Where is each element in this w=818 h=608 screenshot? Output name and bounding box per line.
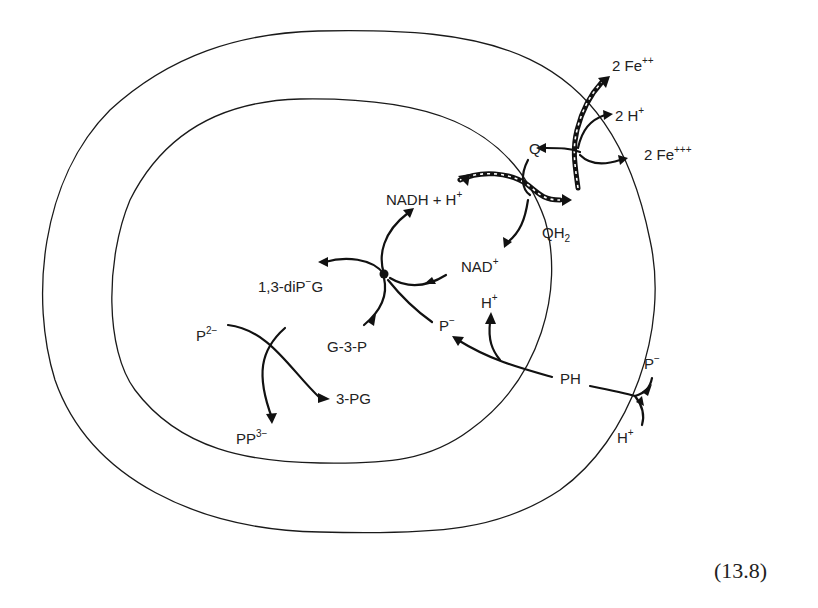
label-nad: NAD+ [461,256,499,275]
label-g3p: G-3-P [327,338,367,355]
outer-membrane [43,31,656,533]
label-3pg: 3-PG [336,390,371,407]
label-p-minus-outer: P− [644,353,660,372]
label-ph: PH [560,370,581,387]
label-h-inner: H+ [481,292,498,311]
label-2fe2: 2 Fe++ [612,55,654,74]
membrane-reaction-diagram: 2 Fe++ 2 H+ 2 Fe+++ Q QH2 NADH + H+ NAD+… [0,0,818,608]
label-p-minus-inner: P− [439,315,455,334]
label-pp3: PP3− [236,428,268,447]
label-h-outer: H+ [617,427,634,446]
label-nadh: NADH + H+ [386,189,462,208]
label-p2: P2− [196,325,218,344]
label-diPG: 1,3-diP−G [258,276,323,295]
label-q: Q [529,140,541,157]
label-2fe3: 2 Fe+++ [644,144,692,163]
quinone-chain-inner [460,174,560,200]
quinone-chain-outer [574,82,602,188]
equation-number: (13.8) [714,558,767,583]
label-qh2: QH2 [542,224,571,244]
label-2h-out: 2 H+ [615,105,644,124]
inner-membrane [112,99,552,463]
